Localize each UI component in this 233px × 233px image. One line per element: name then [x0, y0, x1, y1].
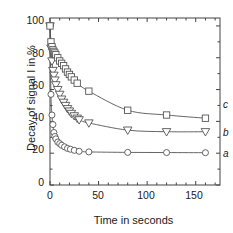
data-point-a — [76, 148, 82, 154]
data-point-c — [86, 88, 92, 94]
data-point-a — [86, 149, 92, 155]
data-point-a — [48, 91, 54, 97]
data-point-a — [164, 150, 170, 156]
series-line-c — [50, 26, 205, 118]
series-a — [47, 23, 209, 156]
data-point-a — [202, 150, 208, 156]
data-point-b — [162, 129, 171, 136]
data-point-c — [202, 115, 208, 121]
decay-chart-figure: Decay of signal I in % Time in seconds 1… — [0, 0, 233, 233]
plot-frame — [50, 18, 220, 185]
data-point-c — [163, 112, 169, 118]
data-point-a — [49, 112, 55, 118]
data-point-a — [50, 122, 56, 128]
data-point-b — [201, 129, 210, 136]
plot-area — [0, 0, 233, 233]
data-point-c — [74, 80, 80, 86]
data-point-c — [125, 107, 131, 113]
data-point-c — [47, 23, 53, 29]
data-point-a — [125, 149, 131, 155]
